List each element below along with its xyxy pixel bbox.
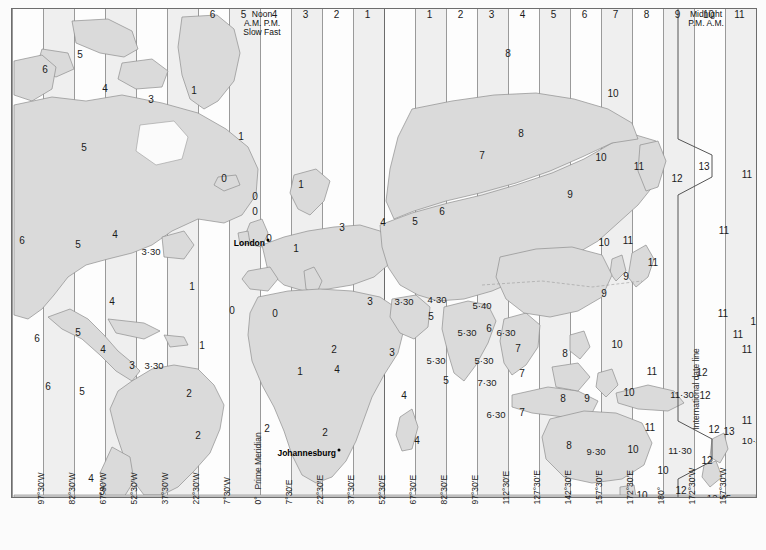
time-zone-band [477,9,508,497]
header-hour-label: 2 [334,10,340,20]
time-zone-boundary-line [291,9,292,497]
zone-offset-label: 11 [718,309,728,319]
zone-offset-label: 2 [331,345,337,355]
city-label-johannesburg: Johannesburg [277,449,336,458]
header-hour-label: 2 [458,10,464,20]
zone-offset-label: 7 [519,408,525,418]
zone-offset-label: 1 [238,132,244,142]
time-zone-boundary-line [167,9,168,497]
zone-offset-label: 10 [627,445,638,455]
longitude-label: 22°30'E [316,475,325,505]
zone-offset-label: 12 [675,486,686,496]
zone-offset-label: 4 [102,84,108,94]
longitude-label: 97°30'E [471,475,480,505]
header-hour-label: 8 [644,10,650,20]
header-hour-label: 11 [734,10,744,20]
longitude-label: 7°30'E [285,480,294,505]
time-zone-band [229,9,260,497]
zone-offset-label: 3 [389,348,395,358]
international-date-line-label: International date line [692,348,701,429]
zone-offset-label: 10 [598,238,609,248]
zone-offset-label: 4 [112,230,118,240]
longitude-label: 127°30'E [533,470,542,504]
header-hour-label: 9 [675,10,681,20]
longitude-label: 157°30'E [595,470,604,504]
time-zone-boundary-line [570,9,571,497]
zone-offset-label: 0 [272,309,278,319]
zone-offset-label: 0 [252,192,258,202]
longitude-label: 157°30'W [719,468,728,505]
zone-offset-label: 5 [77,50,83,60]
longitude-label: 52°30'W [130,473,139,505]
zone-offset-label: 5·30 [474,356,493,366]
zone-offset-label: 3·30 [394,297,413,307]
time-zone-band [663,9,694,497]
zone-offset-label: 10 [595,153,606,163]
longitude-label: 82°30'W [68,473,77,505]
zone-offset-label: 11 [634,162,644,172]
longitude-label: 37°30'W [161,473,170,505]
time-zone-boundary-line [136,9,137,497]
zone-offset-label: 10 [636,491,647,498]
noon-slowfast-label: Slow Fast [243,28,280,37]
time-zone-boundary-line [508,9,509,497]
zone-offset-label: 1 [191,86,197,96]
zone-offset-label: 7·30 [477,378,496,388]
zone-offset-label: 1 [297,367,303,377]
zone-offset-label: 2 [264,424,270,434]
prime-meridian-label: Prime Meridian [254,432,263,489]
header-hour-label: 6 [582,10,588,20]
time-zone-boundary-line [725,9,726,497]
zone-offset-label: 10 [750,317,757,327]
longitude-label: 172°30'E [626,470,635,504]
zone-offset-label: 6 [45,382,51,392]
zone-offset-label: 9 [567,190,573,200]
time-zone-boundary-line [198,9,199,497]
midnight-ampm-label: P.M. A.M. [688,19,724,28]
longitude-label: 142°30'E [564,470,573,504]
zone-offset-label: 10 [623,388,634,398]
zone-offset-label: 3·30 [141,247,160,257]
zone-offset-label: 12 [708,425,719,435]
zone-offset-label: 11 [742,345,752,355]
zone-offset-label: 2 [322,428,328,438]
time-zone-band [539,9,570,497]
longitude-label: 82°30'E [440,475,449,505]
time-zone-band [601,9,632,497]
zone-offset-label: 2 [195,431,201,441]
zone-offset-label: 3 [339,223,345,233]
midnight-header-block: Midnight P.M. A.M. [688,10,724,28]
zone-offset-label: 11 [648,258,658,268]
zone-offset-label: 10 [611,340,622,350]
time-zone-boundary-line [43,9,44,497]
zone-offset-label: 5·40 [472,301,491,311]
zone-offset-label: 1 [199,341,205,351]
zone-offset-label: 11·30 [668,446,692,456]
zone-offset-label: 11 [647,367,657,377]
time-zone-boundary-line [601,9,602,497]
zone-offset-label: 4 [401,391,407,401]
zone-offset-label: 10 [657,466,668,476]
zone-offset-label: 6 [486,324,492,334]
longitude-label: 37°30'E [347,475,356,505]
map-plot-area: 654153110006543·300134567881010111213111… [11,8,757,498]
zone-offset-label: 5 [75,328,81,338]
zone-offset-label: 11 [742,416,752,426]
zone-offset-label: 5·30 [457,328,476,338]
header-hour-label: 5 [551,10,557,20]
header-hour-label: 1 [365,10,371,20]
header-hour-label: 7 [613,10,619,20]
longitude-label: 112°30'E [502,471,511,505]
zone-offset-label: 2 [186,389,192,399]
longitude-label: 7°30'W [223,477,232,504]
zone-offset-label: 9 [584,394,590,404]
city-label-london: London [234,239,265,248]
zone-offset-label: 6 [19,236,25,246]
zone-offset-label: 7 [515,344,521,354]
zone-offset-label: 5 [443,376,449,386]
zone-offset-label: 5 [79,387,85,397]
time-zone-boundary-line [322,9,323,497]
zone-offset-label: 11 [645,423,655,433]
time-zone-boundary-line [446,9,447,497]
time-zone-boundary-line [539,9,540,497]
